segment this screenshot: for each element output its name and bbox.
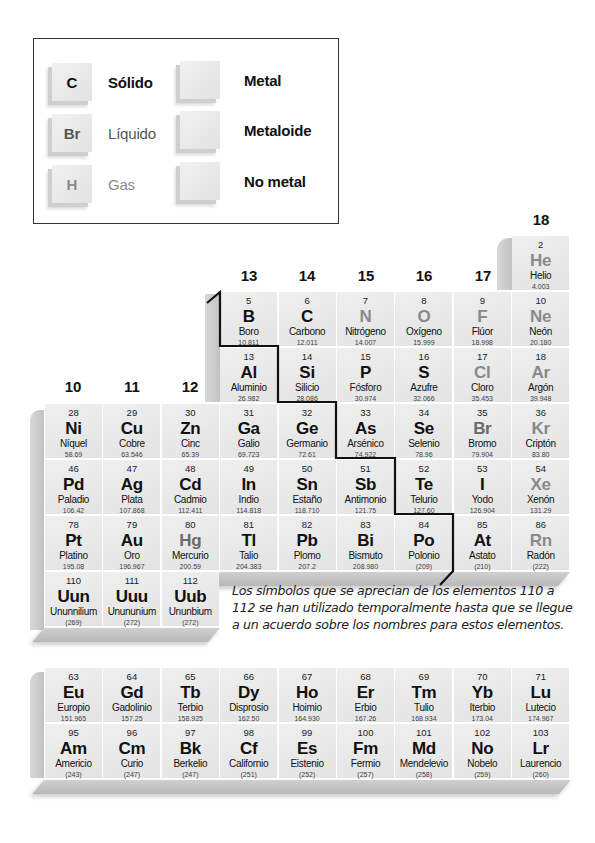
atomic-mass: (260): [512, 771, 569, 778]
element-cell-dy: 66DyDisprosio162.50: [220, 668, 277, 722]
element-name: Tulio: [395, 703, 452, 713]
atomic-number: 98: [220, 728, 277, 738]
element-cell-eu: 63EuEuropio151.965: [45, 668, 102, 722]
element-name: Lutecio: [512, 703, 569, 713]
element-symbol: Tb: [162, 684, 219, 701]
element-cell-es: 99EsEistenio(252): [279, 724, 336, 778]
element-symbol: Ho: [279, 684, 336, 701]
atomic-mass: (252): [279, 771, 336, 778]
element-cell-yb: 70YbIterbio173.04: [454, 668, 511, 722]
atomic-mass: 164.930: [279, 715, 336, 722]
atomic-number: 102: [454, 728, 511, 738]
element-name: Laurencio: [512, 759, 569, 769]
element-symbol: Er: [337, 684, 394, 701]
atomic-number: 63: [45, 672, 102, 682]
element-symbol: No: [454, 740, 511, 757]
atomic-number: 69: [395, 672, 452, 682]
atomic-mass: 168.934: [395, 715, 452, 722]
inner-left-side: [30, 672, 44, 778]
element-symbol: Es: [279, 740, 336, 757]
element-name: Hoimio: [279, 703, 336, 713]
element-symbol: Fm: [337, 740, 394, 757]
atomic-mass: 174.967: [512, 715, 569, 722]
atomic-mass: 158.925: [162, 715, 219, 722]
footnote-text: Los símbolos que se aprecian de los elem…: [232, 582, 577, 633]
element-cell-md: 101MdMendelevio(258): [395, 724, 452, 778]
element-cell-lu: 71LuLutecio174.967: [512, 668, 569, 722]
element-symbol: Bk: [162, 740, 219, 757]
atomic-mass: 173.04: [454, 715, 511, 722]
atomic-number: 68: [337, 672, 394, 682]
element-cell-lr: 103LrLaurencio(260): [512, 724, 569, 778]
atomic-mass: (257): [337, 771, 394, 778]
element-symbol: Lr: [512, 740, 569, 757]
element-name: Berkelio: [162, 759, 219, 769]
atomic-number: 103: [512, 728, 569, 738]
element-symbol: Dy: [220, 684, 277, 701]
element-name: Gadolinio: [103, 703, 160, 713]
atomic-number: 95: [45, 728, 102, 738]
element-name: Californio: [220, 759, 277, 769]
atomic-mass: (247): [162, 771, 219, 778]
element-symbol: Cm: [103, 740, 160, 757]
element-symbol: Am: [45, 740, 102, 757]
atomic-number: 64: [103, 672, 160, 682]
element-symbol: Cf: [220, 740, 277, 757]
element-symbol: Tm: [395, 684, 452, 701]
element-cell-er: 68ErErbio167.26: [337, 668, 394, 722]
element-name: Mendelevio: [395, 759, 452, 769]
element-cell-fm: 100FmFermio(257): [337, 724, 394, 778]
atomic-mass: (247): [103, 771, 160, 778]
atomic-mass: (243): [45, 771, 102, 778]
element-cell-tm: 69TmTulio168.934: [395, 668, 452, 722]
element-cell-cm: 96CmCurio(247): [103, 724, 160, 778]
element-name: Iterbio: [454, 703, 511, 713]
atomic-number: 70: [454, 672, 511, 682]
element-name: Europio: [45, 703, 102, 713]
inner-bottom: [32, 780, 571, 794]
element-name: Fermio: [337, 759, 394, 769]
atomic-mass: 167.26: [337, 715, 394, 722]
element-cell-no: 102NoNobelo(259): [454, 724, 511, 778]
element-symbol: Gd: [103, 684, 160, 701]
atomic-mass: 162.50: [220, 715, 277, 722]
atomic-mass: 151.965: [45, 715, 102, 722]
element-name: Eistenio: [279, 759, 336, 769]
atomic-mass: (251): [220, 771, 277, 778]
element-symbol: Md: [395, 740, 452, 757]
element-cell-bk: 97BkBerkelio(247): [162, 724, 219, 778]
element-name: Curio: [103, 759, 160, 769]
element-cell-am: 95AmAmericio(243): [45, 724, 102, 778]
element-name: Nobelo: [454, 759, 511, 769]
atomic-number: 99: [279, 728, 336, 738]
atomic-number: 101: [395, 728, 452, 738]
atomic-mass: (258): [395, 771, 452, 778]
element-symbol: Lu: [512, 684, 569, 701]
element-cell-gd: 64GdGadolinio157.25: [103, 668, 160, 722]
element-cell-cf: 98CfCalifornio(251): [220, 724, 277, 778]
atomic-number: 97: [162, 728, 219, 738]
atomic-number: 100: [337, 728, 394, 738]
atomic-number: 96: [103, 728, 160, 738]
element-name: Terbio: [162, 703, 219, 713]
element-symbol: Eu: [45, 684, 102, 701]
atomic-mass: (259): [454, 771, 511, 778]
atomic-number: 71: [512, 672, 569, 682]
atomic-number: 65: [162, 672, 219, 682]
atomic-number: 67: [279, 672, 336, 682]
atomic-number: 66: [220, 672, 277, 682]
element-name: Americio: [45, 759, 102, 769]
element-cell-tb: 65TbTerbio158.925: [162, 668, 219, 722]
element-name: Erbio: [337, 703, 394, 713]
atomic-mass: 157.25: [103, 715, 160, 722]
element-name: Disprosio: [220, 703, 277, 713]
element-cell-ho: 67HoHoimio164.930: [279, 668, 336, 722]
element-symbol: Yb: [454, 684, 511, 701]
